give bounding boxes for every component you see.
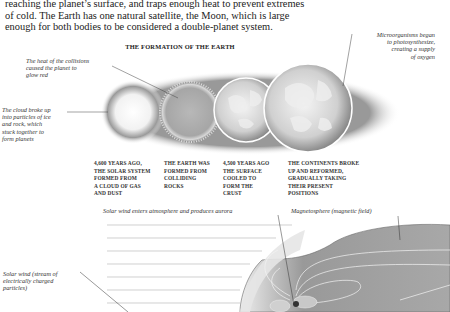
magnetosphere-label: Magnetosphere (magnetic field) <box>291 207 372 214</box>
callout-line: caused the planet to <box>26 64 89 71</box>
modern-globe-icon <box>264 64 352 152</box>
callout-line: electrically charged <box>3 277 58 284</box>
stage-caption-4: THE CONTINENTS BROKE UP AND REFORMED, GR… <box>288 160 359 198</box>
stage-line: POSITIONS <box>288 190 359 198</box>
stage-caption-3: 4,500 YEARS AGO THE SURFACE COOLED TO FO… <box>223 160 269 198</box>
stage-line: UP AND REFORMED, <box>288 168 359 176</box>
callout-line: and rock, which <box>2 120 51 127</box>
stage-line: THE SOLAR SYSTEM <box>94 168 150 176</box>
stage-line: AND DUST <box>94 190 150 198</box>
stage-line: THE CONTINENTS BROKE <box>288 160 359 168</box>
callout-line: creating a supply <box>355 45 435 52</box>
stage-line: FORMED FROM <box>164 168 210 176</box>
callout-line: particles) <box>3 284 58 291</box>
stage-line: A CLOUD OF GAS <box>94 183 150 191</box>
callout-line: Solar wind (stream of <box>3 270 58 277</box>
stage-caption-2: THE EARTH WAS FORMED FROM COLLIDING ROCK… <box>164 160 210 190</box>
aurora-label: Solar wind enters atmosphere and produce… <box>103 207 232 214</box>
molten-planet-icon <box>160 82 220 142</box>
stage-line: 4,500 YEARS AGO <box>223 160 269 168</box>
callout-line: The cloud broke up <box>2 106 51 113</box>
stage-line: FORMED FROM <box>94 175 150 183</box>
stage-caption-1: 4,600 YEARS AGO, THE SOLAR SYSTEM FORMED… <box>94 160 150 198</box>
callout-line: of oxygen <box>355 53 435 60</box>
stage-line: 4,600 YEARS AGO, <box>94 160 150 168</box>
stage-line: THE SURFACE <box>223 168 269 176</box>
callout-line: Microorganisms began <box>355 31 435 38</box>
callout-heat: The heat of the collisions caused the pl… <box>26 57 89 79</box>
gas-cloud-icon <box>101 80 165 144</box>
callout-line: to photosynthesize, <box>355 38 435 45</box>
stage-line: THEIR PRESENT <box>288 183 359 191</box>
callout-line: into particles of ice <box>2 113 51 120</box>
callout-line: stuck together to <box>2 128 51 135</box>
callout-line: form planets <box>2 135 51 142</box>
stage-line: COLLIDING <box>164 175 210 183</box>
magnetosphere-illustration <box>80 215 450 312</box>
callout-microorganisms: Microorganisms began to photosynthesize,… <box>355 31 435 60</box>
callout-line: The heat of the collisions <box>26 57 89 64</box>
stage-line: CRUST <box>223 190 269 198</box>
stage-line: FORM THE <box>223 183 269 191</box>
stage-line: THE EARTH WAS <box>164 160 210 168</box>
solar-wind-label: Solar wind (stream of electrically charg… <box>3 270 58 292</box>
callout-cloud: The cloud broke up into particles of ice… <box>2 106 51 142</box>
stage-line: ROCKS <box>164 183 210 191</box>
stage-line: COOLED TO <box>223 175 269 183</box>
callout-line: glow red <box>26 71 89 78</box>
stage-line: GRADUALLY TAKING <box>288 175 359 183</box>
